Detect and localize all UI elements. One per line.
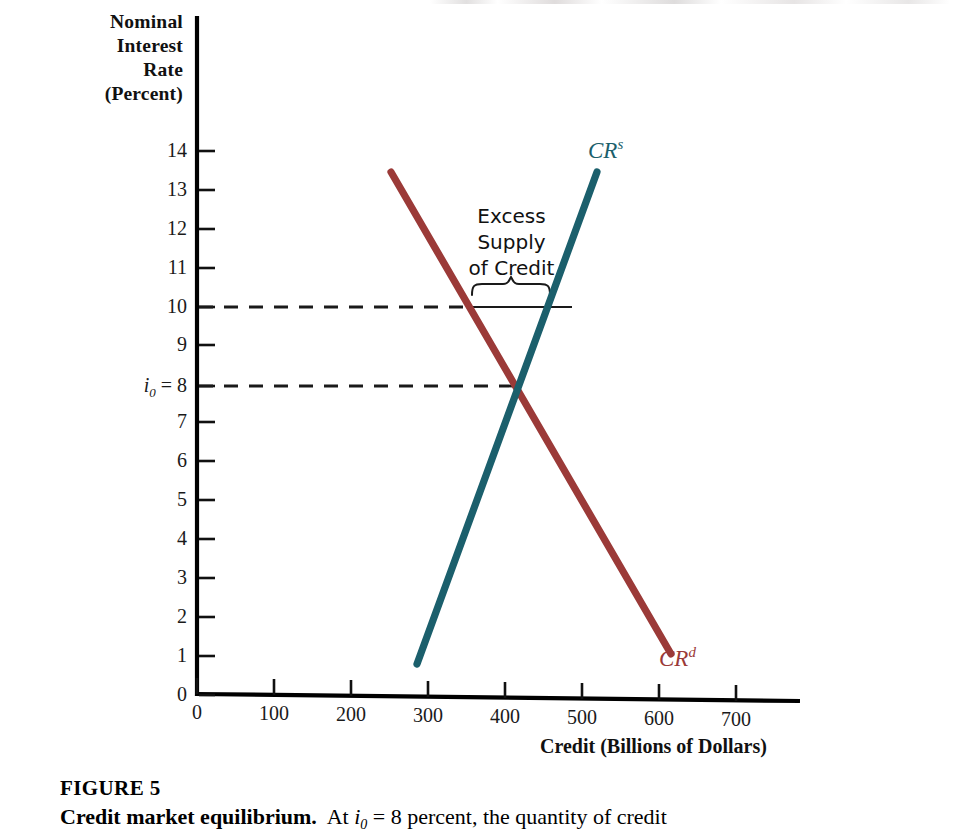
y-tick-label-2: 2: [147, 605, 187, 628]
supply-curve-label-superscript: s: [617, 136, 623, 152]
figure-caption-text-pre: At: [327, 804, 355, 829]
figure-number: FIGURE 5: [60, 776, 760, 801]
y-tick-label-6: 6: [147, 449, 187, 472]
excess-supply-line-1: Excess: [434, 203, 589, 229]
y-tick-label-11: 11: [147, 256, 187, 279]
x-tick-label-400: 400: [470, 705, 540, 728]
demand-curve-label-superscript: d: [688, 644, 696, 660]
y-tick-label-12: 12: [147, 217, 187, 240]
excess-supply-annotation: Excess Supply of Credit: [434, 203, 589, 281]
y-tick-marks: [199, 151, 215, 695]
y-tick-label-10: 10: [147, 295, 187, 318]
y-tick-label-1: 1: [147, 644, 187, 667]
supply-curve-label: CRs: [588, 136, 623, 164]
y-tick-label-7: 7: [147, 410, 187, 433]
figure-caption-body: Credit market equilibrium. At i0 = 8 per…: [60, 803, 760, 832]
figure-caption-text-post: = 8 percent, the quantity of credit: [367, 804, 667, 829]
equilibrium-value: = 8: [156, 374, 187, 396]
y-tick-label-14: 14: [147, 139, 187, 162]
x-tick-label-100: 100: [239, 702, 309, 725]
y-tick-label-5: 5: [147, 488, 187, 511]
figure-caption-title: Credit market equilibrium.: [60, 804, 317, 829]
figure-caption: FIGURE 5 Credit market equilibrium. At i…: [60, 776, 760, 832]
excess-supply-line-3: of Credit: [434, 255, 589, 281]
y-tick-label-9: 9: [147, 333, 187, 356]
x-tick-label-500: 500: [547, 706, 617, 729]
x-tick-label-700: 700: [701, 708, 771, 731]
x-axis-line: [195, 694, 800, 701]
x-axis-title: Credit (Billions of Dollars): [540, 735, 767, 758]
y-tick-label-13: 13: [147, 178, 187, 201]
y-tick-label-4: 4: [147, 527, 187, 550]
figure-container: Nominal Interest Rate (Percent): [0, 0, 957, 832]
y-tick-label-equilibrium: i0 = 8: [97, 374, 187, 401]
y-tick-label-3: 3: [147, 566, 187, 589]
x-tick-label-0: 0: [162, 701, 232, 724]
x-tick-label-600: 600: [624, 707, 694, 730]
excess-supply-line-2: Supply: [434, 229, 589, 255]
x-tick-label-200: 200: [316, 703, 386, 726]
x-tick-label-300: 300: [393, 704, 463, 727]
demand-curve-label-text: CR: [659, 646, 688, 671]
demand-curve-label: CRd: [659, 644, 696, 672]
supply-curve-label-text: CR: [588, 138, 617, 163]
